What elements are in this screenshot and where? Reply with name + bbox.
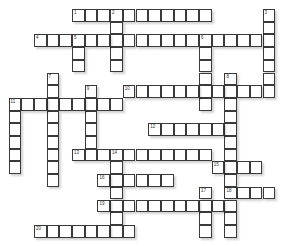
crossword-cell[interactable]: 20	[34, 225, 47, 238]
crossword-cell[interactable]	[47, 123, 60, 136]
crossword-cell[interactable]	[136, 174, 149, 187]
crossword-cell[interactable]	[263, 85, 276, 98]
crossword-cell[interactable]	[174, 85, 187, 98]
crossword-cell[interactable]	[123, 149, 136, 162]
crossword-cell[interactable]	[199, 123, 212, 136]
crossword-cell[interactable]	[161, 149, 174, 162]
crossword-cell[interactable]	[186, 9, 199, 22]
crossword-cell[interactable]	[174, 200, 187, 213]
crossword-cell[interactable]	[237, 187, 250, 200]
crossword-cell[interactable]	[97, 225, 110, 238]
crossword-cell[interactable]	[263, 187, 276, 200]
crossword-cell[interactable]	[148, 85, 161, 98]
crossword-cell[interactable]: 11	[9, 98, 22, 111]
crossword-cell[interactable]	[136, 9, 149, 22]
crossword-cell[interactable]	[110, 47, 123, 60]
crossword-cell[interactable]	[47, 136, 60, 149]
crossword-cell[interactable]: 16	[97, 174, 110, 187]
crossword-cell[interactable]	[199, 9, 212, 22]
crossword-cell[interactable]	[136, 200, 149, 213]
crossword-cell[interactable]	[174, 9, 187, 22]
crossword-cell[interactable]	[85, 136, 98, 149]
crossword-cell[interactable]	[72, 47, 85, 60]
crossword-cell[interactable]	[199, 149, 212, 162]
crossword-cell[interactable]: 6	[199, 34, 212, 47]
crossword-cell[interactable]	[148, 200, 161, 213]
crossword-cell[interactable]	[250, 161, 263, 174]
crossword-cell[interactable]	[97, 149, 110, 162]
crossword-cell[interactable]	[174, 34, 187, 47]
crossword-cell[interactable]	[199, 225, 212, 238]
crossword-cell[interactable]	[136, 34, 149, 47]
crossword-cell[interactable]: 3	[263, 9, 276, 22]
crossword-cell[interactable]	[123, 200, 136, 213]
crossword-cell[interactable]	[250, 85, 263, 98]
crossword-cell[interactable]	[110, 187, 123, 200]
crossword-cell[interactable]	[136, 85, 149, 98]
crossword-cell[interactable]	[110, 212, 123, 225]
crossword-cell[interactable]	[34, 98, 47, 111]
crossword-cell[interactable]	[237, 34, 250, 47]
crossword-cell[interactable]	[9, 161, 22, 174]
crossword-cell[interactable]	[9, 123, 22, 136]
crossword-cell[interactable]	[199, 73, 212, 86]
crossword-cell[interactable]	[123, 9, 136, 22]
crossword-cell[interactable]	[110, 98, 123, 111]
crossword-cell[interactable]	[263, 60, 276, 73]
crossword-cell[interactable]: 13	[72, 149, 85, 162]
crossword-cell[interactable]	[47, 174, 60, 187]
crossword-cell[interactable]	[199, 212, 212, 225]
crossword-cell[interactable]	[85, 98, 98, 111]
crossword-cell[interactable]	[110, 34, 123, 47]
crossword-cell[interactable]: 17	[199, 187, 212, 200]
crossword-cell[interactable]	[110, 225, 123, 238]
crossword-cell[interactable]	[263, 22, 276, 35]
crossword-cell[interactable]	[136, 149, 149, 162]
crossword-cell[interactable]: 15	[212, 161, 225, 174]
crossword-cell[interactable]	[199, 47, 212, 60]
crossword-cell[interactable]: 10	[123, 85, 136, 98]
crossword-cell[interactable]	[224, 161, 237, 174]
crossword-cell[interactable]	[186, 34, 199, 47]
crossword-cell[interactable]	[148, 9, 161, 22]
crossword-cell[interactable]	[186, 200, 199, 213]
crossword-cell[interactable]: 12	[148, 123, 161, 136]
crossword-cell[interactable]	[123, 174, 136, 187]
crossword-cell[interactable]	[123, 225, 136, 238]
crossword-cell[interactable]	[161, 200, 174, 213]
crossword-cell[interactable]	[199, 200, 212, 213]
crossword-cell[interactable]	[199, 60, 212, 73]
crossword-cell[interactable]	[59, 225, 72, 238]
crossword-cell[interactable]	[85, 34, 98, 47]
crossword-cell[interactable]	[186, 85, 199, 98]
crossword-cell[interactable]	[199, 98, 212, 111]
crossword-cell[interactable]	[97, 9, 110, 22]
crossword-cell[interactable]	[161, 9, 174, 22]
crossword-cell[interactable]	[47, 149, 60, 162]
crossword-cell[interactable]	[224, 212, 237, 225]
crossword-cell[interactable]	[161, 123, 174, 136]
crossword-cell[interactable]	[212, 123, 225, 136]
crossword-cell[interactable]	[263, 73, 276, 86]
crossword-cell[interactable]	[174, 123, 187, 136]
crossword-cell[interactable]	[85, 225, 98, 238]
crossword-cell[interactable]	[224, 149, 237, 162]
crossword-cell[interactable]	[110, 60, 123, 73]
crossword-cell[interactable]	[250, 187, 263, 200]
crossword-cell[interactable]	[110, 174, 123, 187]
crossword-cell[interactable]	[224, 174, 237, 187]
crossword-cell[interactable]	[72, 225, 85, 238]
crossword-cell[interactable]	[237, 161, 250, 174]
crossword-cell[interactable]	[85, 9, 98, 22]
crossword-cell[interactable]	[212, 200, 225, 213]
crossword-cell[interactable]: 19	[97, 200, 110, 213]
crossword-cell[interactable]: 9	[85, 85, 98, 98]
crossword-cell[interactable]	[199, 85, 212, 98]
crossword-cell[interactable]: 2	[110, 9, 123, 22]
crossword-cell[interactable]	[21, 98, 34, 111]
crossword-cell[interactable]	[174, 149, 187, 162]
crossword-cell[interactable]	[224, 85, 237, 98]
crossword-cell[interactable]	[224, 98, 237, 111]
crossword-cell[interactable]	[47, 85, 60, 98]
crossword-cell[interactable]	[72, 98, 85, 111]
